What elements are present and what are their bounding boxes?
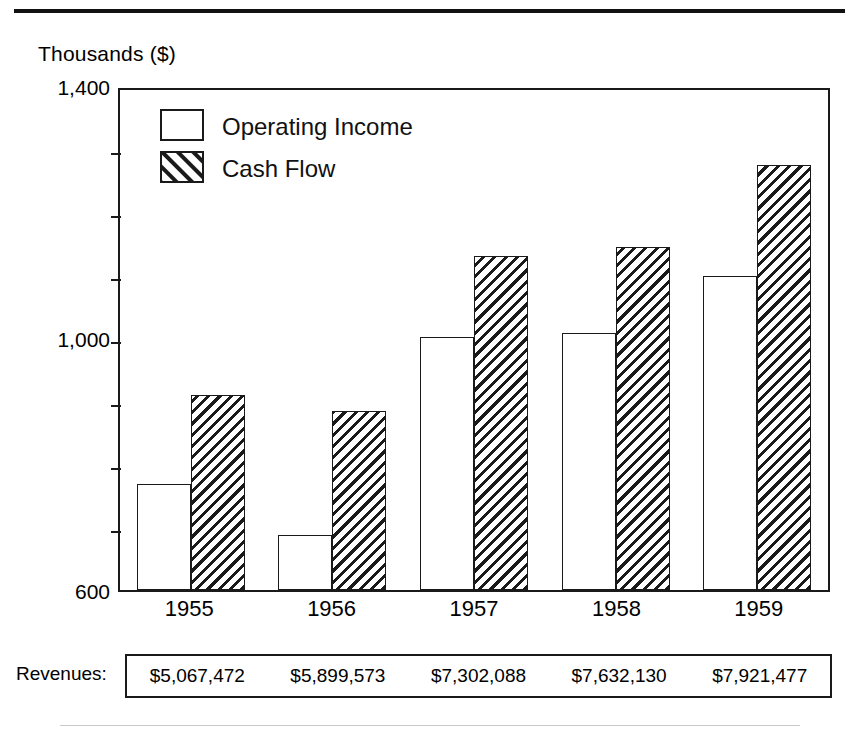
bar-group-1955 [120,90,262,590]
x-tick-label-1959: 1959 [688,596,830,622]
revenues-row: $5,067,472 $5,899,573 $7,302,088 $7,632,… [125,654,832,698]
chart-page: { "chart_data": { "type": "bar", "title"… [0,0,859,736]
bar-operating-income-1955 [137,484,191,590]
y-tick-label-1400: 1,400 [57,76,110,100]
y-tick-label-600: 600 [75,580,110,604]
bar-group-1957 [403,90,545,590]
bar-cash-flow-1959 [757,165,811,590]
bar-group-1958 [545,90,687,590]
revenue-value-1959: $7,921,477 [689,665,830,687]
x-tick-label-1957: 1957 [403,596,545,622]
bottom-divider-rule [60,725,800,726]
x-tick-label-1956: 1956 [260,596,402,622]
x-axis-tick-labels: 1955 1956 1957 1958 1959 [118,596,830,622]
bar-operating-income-1957 [420,337,474,590]
y-tick-label-1000: 1,000 [57,328,110,352]
revenue-value-1958: $7,632,130 [549,665,690,687]
revenues-row-label: Revenues: [16,663,107,685]
bar-group-1956 [262,90,404,590]
top-divider-rule [14,9,845,13]
x-tick-label-1958: 1958 [545,596,687,622]
bar-operating-income-1956 [278,535,332,590]
bar-operating-income-1959 [703,276,757,590]
bar-group-1959 [686,90,828,590]
bar-operating-income-1958 [562,333,616,590]
revenue-value-1956: $5,899,573 [268,665,409,687]
y-axis-tick-labels: 1,400 1,000 600 [0,0,110,736]
plot-area: Operating Income Cash Flow [118,88,830,592]
x-tick-label-1955: 1955 [118,596,260,622]
bar-cash-flow-1957 [474,256,528,590]
plot-inner: Operating Income Cash Flow [120,90,828,590]
bar-cash-flow-1958 [616,247,670,590]
bar-groups [120,90,828,590]
bar-cash-flow-1956 [332,411,386,590]
revenue-value-1955: $5,067,472 [127,665,268,687]
revenue-value-1957: $7,302,088 [408,665,549,687]
bar-cash-flow-1955 [191,395,245,590]
